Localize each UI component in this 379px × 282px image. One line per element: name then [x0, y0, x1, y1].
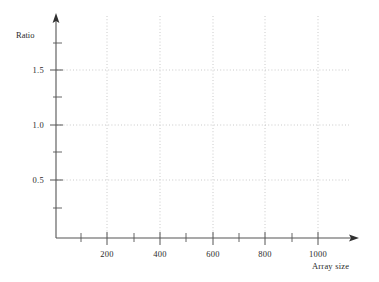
- horizontal-gridlines: [57, 70, 349, 180]
- y-tick-label-0.5: 0.5: [17, 176, 44, 185]
- x-tick-label-200: 200: [100, 250, 114, 259]
- x-tick-label-800: 800: [258, 250, 272, 259]
- x-tick-label-1000: 1000: [309, 250, 327, 259]
- y-tick-label-1.0: 1.0: [17, 121, 44, 130]
- x-axis: [56, 235, 359, 242]
- chart-figure: Ratio 1.5 1.0 0.5 200 400 600 800 1000 A…: [0, 0, 379, 282]
- chart-canvas: [0, 0, 379, 282]
- x-tick-label-400: 400: [153, 250, 167, 259]
- plot-area: Ratio 1.5 1.0 0.5 200 400 600 800 1000 A…: [0, 0, 379, 282]
- y-axis-title: Ratio: [16, 31, 34, 40]
- y-tick-label-1.5: 1.5: [17, 66, 44, 75]
- x-axis-title: Array size: [312, 262, 349, 271]
- x-tick-label-600: 600: [206, 250, 220, 259]
- vertical-gridlines: [107, 16, 318, 237]
